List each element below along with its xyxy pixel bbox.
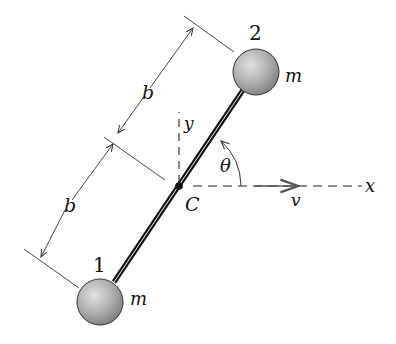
velocity-label: v (291, 190, 301, 210)
dimension-lines (41, 28, 193, 257)
y-axis-label: y (183, 113, 194, 133)
center-label: C (185, 193, 200, 215)
upper-length-label: b (142, 81, 154, 103)
upper-dimension-line-a (150, 28, 193, 88)
mass-1-label: m (130, 288, 147, 309)
dumbbell-diagram: b b y x v θ C 2 m 1 m (0, 0, 396, 344)
lower-dimension-line-b (41, 210, 65, 257)
lower-length-label: b (64, 194, 76, 216)
mass-2-ball (233, 49, 279, 95)
mass-2-label: m (285, 65, 302, 86)
upper-dimension-line-b (118, 98, 143, 133)
x-axis-label: x (365, 175, 375, 196)
mass-1-number: 1 (93, 253, 106, 277)
angle-label: θ (220, 155, 231, 176)
mass-1-ball (77, 279, 123, 325)
lower-dimension-line-a (72, 144, 113, 200)
center-of-mass-point (175, 182, 183, 190)
mass-2-number: 2 (249, 21, 262, 45)
